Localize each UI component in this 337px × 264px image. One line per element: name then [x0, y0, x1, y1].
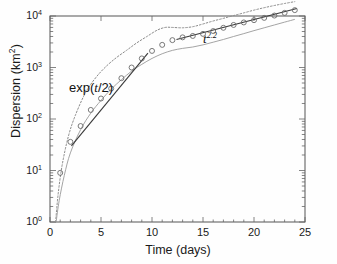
x-axis-title: Time (days) [50, 243, 306, 257]
y-axis-title: Dispersion (km2) [9, 11, 23, 171]
x-tick-label: 0 [38, 226, 62, 238]
y-tick-label: 102 [16, 112, 42, 124]
x-tick-label: 5 [89, 226, 113, 238]
x-tick-label: 25 [293, 226, 317, 238]
chart-figure: Dispersion (km2) Time (days) 0510152025 … [0, 0, 337, 264]
y-tick-label: 104 [16, 9, 42, 21]
y-tick-label: 101 [16, 164, 42, 176]
annotation-exponential: exp(t/2) [69, 80, 113, 96]
x-tick-label: 10 [140, 226, 164, 238]
plot-frame [50, 16, 305, 222]
annotation-power-law: t2.2 [203, 31, 217, 47]
axis-tick-marks [50, 16, 305, 222]
fit-lines [71, 8, 296, 145]
x-tick-label: 20 [242, 226, 266, 238]
x-tick-label: 15 [191, 226, 215, 238]
y-tick-label: 100 [16, 215, 42, 227]
chart-canvas [0, 0, 337, 264]
y-tick-label: 103 [16, 61, 42, 73]
